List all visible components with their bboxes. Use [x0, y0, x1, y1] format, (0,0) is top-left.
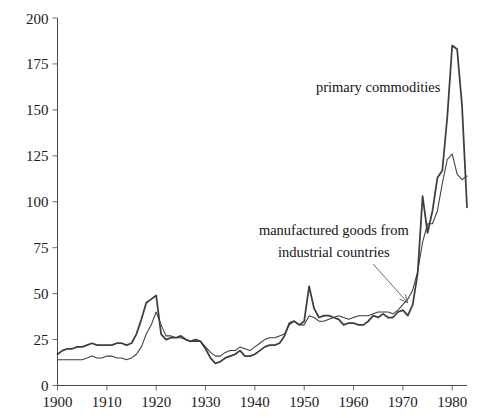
manufactured-goods-pointer-arrow	[373, 264, 408, 303]
x-axis-tick-label: 1960	[339, 394, 369, 410]
series-line-manufactured-goods	[58, 154, 468, 360]
manufactured-goods-label-line1: manufactured goods from	[259, 222, 410, 238]
x-axis-tick-label: 1940	[240, 394, 270, 410]
x-axis-tick-label: 1950	[289, 394, 319, 410]
y-axis-tick-label: 100	[26, 194, 49, 210]
chart-container: 0255075100125150175200 19001910192019301…	[0, 0, 477, 418]
y-axis-tick-label: 200	[26, 11, 49, 27]
y-axis-tick-label: 75	[34, 240, 49, 256]
y-axis-tick-label: 25	[34, 332, 49, 348]
y-axis-tick-group: 0255075100125150175200	[26, 11, 58, 395]
primary-commodities-label: primary commodities	[316, 79, 441, 95]
y-axis-tick-label: 0	[41, 378, 49, 394]
x-axis-tick-label: 1910	[92, 394, 122, 410]
x-axis-tick-label: 1970	[388, 394, 418, 410]
y-axis-tick-label: 50	[34, 286, 49, 302]
manufactured-goods-label-line2: industrial countries	[278, 244, 390, 260]
x-axis-tick-label: 1930	[191, 394, 221, 410]
annotation-group: primary commoditiesmanufactured goods fr…	[259, 79, 441, 260]
price-index-line-chart: 0255075100125150175200 19001910192019301…	[0, 0, 477, 418]
y-axis-tick-label: 175	[26, 56, 49, 72]
x-axis-tick-label: 1920	[141, 394, 171, 410]
y-axis-tick-label: 150	[26, 102, 49, 118]
x-axis-tick-group: 190019101920193019401950196019701980	[43, 386, 468, 410]
x-axis-tick-label: 1900	[43, 394, 73, 410]
y-axis-tick-label: 125	[26, 148, 49, 164]
x-axis-tick-label: 1980	[437, 394, 467, 410]
